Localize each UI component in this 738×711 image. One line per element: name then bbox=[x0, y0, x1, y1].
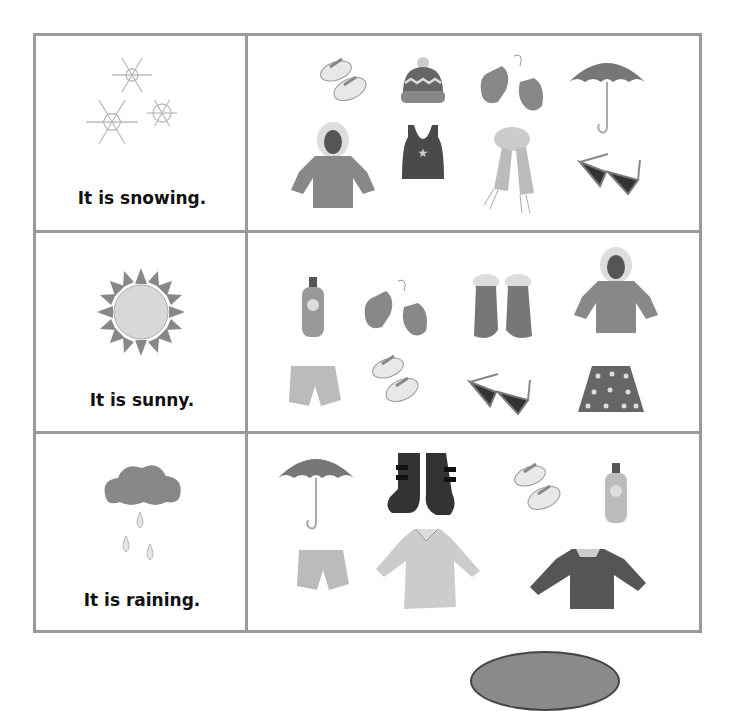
umbrella-icon[interactable] bbox=[276, 452, 356, 532]
sunscreen-bottle-icon[interactable] bbox=[603, 463, 629, 525]
snowflakes-icon bbox=[80, 50, 190, 150]
row-divider-2 bbox=[33, 431, 702, 434]
shorts-icon[interactable] bbox=[287, 362, 343, 410]
svg-text:★: ★ bbox=[418, 146, 429, 160]
flip-flops-icon[interactable] bbox=[318, 55, 373, 105]
rain-boots-icon[interactable] bbox=[384, 449, 460, 521]
shorts-icon[interactable] bbox=[295, 546, 351, 594]
raincoat-icon[interactable] bbox=[374, 527, 482, 611]
weather-label-snowing: It is snowing. bbox=[36, 188, 248, 208]
sun-icon bbox=[96, 267, 186, 357]
sunglasses-icon[interactable] bbox=[468, 370, 534, 420]
snow-boots-icon[interactable] bbox=[470, 272, 536, 344]
decorative-circle-partial bbox=[470, 651, 620, 711]
weather-label-raining: It is raining. bbox=[36, 590, 248, 610]
flip-flops-icon[interactable] bbox=[370, 352, 425, 407]
sunglasses-icon[interactable] bbox=[578, 150, 644, 200]
tank-top-icon[interactable]: ★ bbox=[400, 123, 446, 183]
winter-coat-icon[interactable] bbox=[568, 247, 664, 337]
flip-flops-icon[interactable] bbox=[512, 460, 567, 515]
rain-cloud-icon bbox=[100, 458, 184, 568]
umbrella-icon[interactable] bbox=[567, 56, 647, 136]
winter-coat-icon[interactable] bbox=[285, 122, 381, 212]
row-divider-1 bbox=[33, 230, 702, 233]
sweater-icon[interactable] bbox=[526, 543, 650, 613]
sunscreen-bottle-icon[interactable] bbox=[300, 277, 326, 339]
polka-dot-skirt-icon[interactable] bbox=[576, 362, 646, 416]
weather-label-sunny: It is sunny. bbox=[36, 390, 248, 410]
column-divider bbox=[245, 33, 248, 633]
mittens-icon[interactable] bbox=[360, 277, 432, 339]
scarf-icon[interactable] bbox=[480, 125, 540, 215]
mittens-icon[interactable] bbox=[476, 52, 548, 114]
knit-hat-icon[interactable] bbox=[398, 55, 448, 107]
